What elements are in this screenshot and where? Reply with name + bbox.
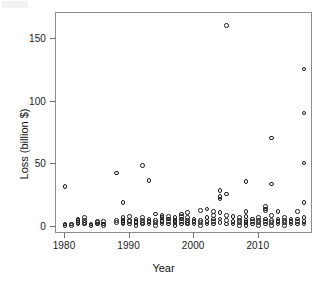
data-point <box>198 208 203 213</box>
data-point <box>302 161 307 166</box>
data-point <box>276 222 281 227</box>
data-point <box>218 197 223 202</box>
y-tick-label: 150 <box>29 33 46 44</box>
x-tick-label: 2000 <box>182 240 205 251</box>
data-point <box>218 220 223 225</box>
data-point <box>250 222 255 227</box>
data-point <box>63 184 68 189</box>
data-point <box>224 213 229 218</box>
data-point <box>289 222 294 227</box>
y-axis-label: Loss (billion $) <box>18 64 30 224</box>
data-point <box>173 223 178 228</box>
data-point <box>69 223 74 228</box>
data-point <box>101 223 106 228</box>
y-tick-label: 100 <box>29 95 46 106</box>
data-point <box>263 222 268 227</box>
data-point <box>224 222 229 227</box>
x-tick-label: 1980 <box>53 240 76 251</box>
data-point <box>114 220 119 225</box>
y-tick-mark <box>50 101 55 102</box>
data-point <box>127 222 132 227</box>
data-point <box>205 222 210 227</box>
data-point <box>302 222 307 227</box>
data-point <box>211 222 216 227</box>
data-point <box>153 212 158 217</box>
data-point <box>295 209 300 214</box>
x-tick-label: 2010 <box>246 240 269 251</box>
data-point <box>218 210 223 215</box>
data-point <box>269 182 274 187</box>
data-point <box>218 188 223 193</box>
corner-artifact <box>2 1 28 8</box>
data-point <box>160 222 165 227</box>
y-tick-mark <box>50 163 55 164</box>
data-point <box>244 179 249 184</box>
y-tick-mark <box>50 226 55 227</box>
data-point <box>269 223 274 228</box>
data-point <box>263 208 268 213</box>
data-point <box>134 223 139 228</box>
data-point <box>89 223 94 228</box>
y-tick-label: 50 <box>35 158 46 169</box>
data-point <box>224 192 229 197</box>
data-point <box>147 178 152 183</box>
data-point <box>140 222 145 227</box>
data-point <box>244 209 249 214</box>
data-point <box>82 222 87 227</box>
data-point <box>231 214 236 219</box>
y-tick-label: 0 <box>40 220 46 231</box>
data-point <box>140 163 145 168</box>
x-tick-mark <box>64 233 65 238</box>
x-tick-label: 1990 <box>117 240 140 251</box>
data-point <box>282 223 287 228</box>
data-point <box>302 111 307 116</box>
data-point <box>302 200 307 205</box>
data-point <box>198 223 203 228</box>
data-point <box>237 223 242 228</box>
data-point <box>256 223 261 228</box>
data-point <box>76 218 81 223</box>
data-point <box>231 222 236 227</box>
data-point <box>192 222 197 227</box>
data-point <box>121 222 126 227</box>
y-tick-mark <box>50 38 55 39</box>
data-point <box>269 213 274 218</box>
data-point <box>205 207 210 212</box>
plot-frame <box>55 12 312 233</box>
data-point <box>185 222 190 227</box>
data-point <box>224 23 229 28</box>
data-point <box>179 222 184 227</box>
x-tick-mark <box>258 233 259 238</box>
data-point <box>269 136 274 141</box>
data-point <box>166 222 171 227</box>
data-point <box>114 171 119 176</box>
data-point <box>63 223 68 228</box>
x-axis-label: Year <box>0 262 327 274</box>
data-point <box>185 210 190 215</box>
data-point <box>302 67 307 72</box>
data-point <box>295 222 300 227</box>
x-tick-mark <box>129 233 130 238</box>
data-point <box>121 200 126 205</box>
scatter-plot-figure: 1980199020002010050100150 Year Loss (bil… <box>0 0 327 288</box>
data-points-layer <box>56 13 311 232</box>
x-tick-mark <box>193 233 194 238</box>
data-point <box>147 222 152 227</box>
data-point <box>95 222 100 227</box>
data-point <box>276 209 281 214</box>
data-point <box>244 223 249 228</box>
data-point <box>153 223 158 228</box>
